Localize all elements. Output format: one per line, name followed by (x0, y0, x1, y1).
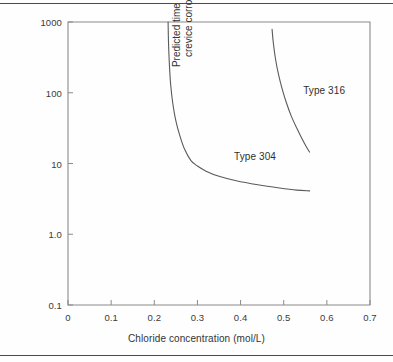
x-tick-label: 0.2 (148, 312, 162, 323)
y-tick-label: 1000 (26, 17, 62, 28)
y-tick-label: 0.1 (26, 300, 62, 311)
x-tick-label: 0.4 (234, 312, 248, 323)
series-curves (168, 22, 310, 191)
series-annotation-type-304: Type 304 (234, 151, 276, 162)
x-axis-title: Chloride concentration (mol/L) (0, 333, 393, 344)
y-tick-marks (68, 22, 73, 305)
x-tick-label: 0 (65, 312, 70, 323)
x-tick-label: 0.5 (277, 312, 291, 323)
x-tick-label: 0.7 (363, 312, 377, 323)
series-curve-type-304 (168, 22, 310, 191)
y-tick-label: 1.0 (26, 229, 62, 240)
x-tick-label: 0.1 (104, 312, 118, 323)
y-tick-label: 100 (26, 87, 62, 98)
chart-plot-area: 1000100101.00.1 00.10.20.30.40.50.60.7 T… (0, 6, 393, 354)
x-tick-label: 0.3 (191, 312, 205, 323)
top-divider-rule (0, 3, 393, 4)
x-tick-marks (68, 300, 370, 305)
bottom-divider-rule (0, 355, 393, 356)
axes-frame-path (68, 22, 370, 305)
series-annotation-type-316: Type 316 (303, 85, 345, 96)
axes-frame (68, 22, 370, 305)
y-tick-label: 10 (26, 158, 62, 169)
x-tick-label: 0.6 (320, 312, 334, 323)
figure-root: 1000100101.00.1 00.10.20.30.40.50.60.7 T… (0, 0, 393, 362)
